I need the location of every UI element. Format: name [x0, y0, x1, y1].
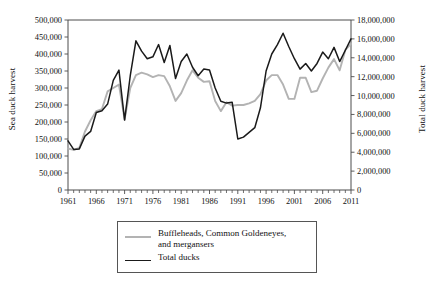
legend-label-total-ducks: Total ducks [158, 252, 200, 263]
y-left-tick-label: 350,000 [35, 67, 62, 76]
y-left-tick-label: 150,000 [35, 135, 62, 144]
x-tick-label: 1976 [145, 197, 162, 206]
x-axis-ticks: 1961196619711976198119861991199620012006… [60, 190, 360, 206]
series-line-total-ducks [68, 33, 351, 149]
x-tick-label: 1991 [229, 197, 246, 206]
y-right-tick-label: 8,000,000 [357, 110, 391, 119]
x-tick-label: 2011 [343, 197, 359, 206]
legend: Buffleheads, Common Goldeneyes, and merg… [117, 221, 317, 273]
x-tick-label: 1986 [201, 197, 218, 206]
y-left-tick-label: 300,000 [35, 84, 62, 93]
legend-item-total-ducks: Total ducks [125, 252, 308, 265]
x-tick-label: 1971 [116, 197, 133, 206]
y-left-tick-label: 200,000 [35, 118, 62, 127]
x-tick-label: 1961 [60, 197, 77, 206]
y-left-tick-label: 500,000 [35, 16, 62, 25]
legend-swatch-total-ducks [125, 256, 151, 265]
sea-duck-harvest-chart: Sea duck harvest Total duck harvest 050,… [0, 0, 435, 289]
x-tick-label: 1996 [258, 197, 275, 206]
x-tick-label: 1966 [88, 197, 105, 206]
y-left-tick-label: 100,000 [35, 152, 62, 161]
x-tick-label: 2001 [286, 197, 303, 206]
y-left-tick-label: 50,000 [39, 169, 62, 178]
y-axis-right-ticks: 02,000,0004,000,0006,000,0008,000,00010,… [351, 16, 395, 195]
series-line-sea-ducks [68, 44, 351, 150]
y-left-tick-label: 400,000 [35, 50, 62, 59]
y-right-tick-label: 0 [357, 186, 361, 195]
legend-swatch-sea-ducks [125, 232, 151, 241]
data-series [68, 33, 351, 150]
y-left-tick-label: 0 [58, 186, 62, 195]
y-right-tick-label: 18,000,000 [357, 16, 395, 25]
y-right-tick-label: 4,000,000 [357, 148, 391, 157]
axis-lines [68, 20, 351, 190]
y-right-tick-label: 10,000,000 [357, 92, 395, 101]
legend-item-sea-ducks: Buffleheads, Common Goldeneyes, and merg… [125, 228, 308, 250]
y-right-tick-label: 16,000,000 [357, 35, 395, 44]
y-right-tick-label: 12,000,000 [357, 73, 395, 82]
y-right-tick-label: 14,000,000 [357, 54, 395, 63]
legend-label-line1: Buffleheads, Common Goldeneyes, [158, 228, 286, 238]
y-right-tick-label: 6,000,000 [357, 129, 391, 138]
legend-label-sea-ducks: Buffleheads, Common Goldeneyes, and merg… [158, 228, 286, 250]
x-tick-label: 1981 [173, 197, 190, 206]
x-tick-label: 2006 [314, 197, 331, 206]
legend-label-line2: and mergansers [158, 239, 214, 249]
y-left-tick-label: 450,000 [35, 33, 62, 42]
y-axis-left-ticks: 050,000100,000150,000200,000250,000300,0… [35, 16, 68, 195]
y-left-tick-label: 250,000 [35, 101, 62, 110]
y-right-tick-label: 2,000,000 [357, 167, 391, 176]
